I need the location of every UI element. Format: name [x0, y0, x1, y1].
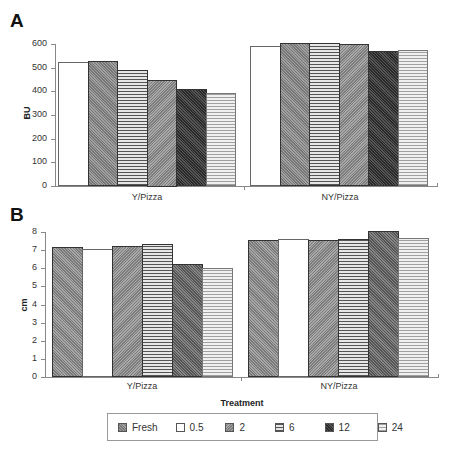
y-tick-label: 3: [9, 317, 37, 327]
legend-swatch-0-5: [176, 423, 185, 432]
bar-2: [112, 246, 143, 377]
legend-item-0-5: 0.5: [176, 422, 204, 433]
y-tick-label: 7: [9, 244, 37, 254]
legend-item-12: 12: [325, 422, 350, 433]
y-tick-label: 2: [9, 335, 37, 345]
bar-0-5: [82, 249, 113, 377]
bar-2: [308, 240, 339, 377]
chart-b-category-label: NY/Pizza: [279, 381, 399, 391]
chart-b: cm 012345678 Y/Pizza NY/Pizza Treatment: [0, 0, 450, 454]
legend-label: 12: [339, 422, 350, 433]
bar-12: [368, 231, 399, 377]
legend-label: 2: [239, 422, 245, 433]
legend-swatch-2: [225, 423, 234, 432]
bar-Fresh: [248, 240, 279, 377]
y-tick-label: 5: [9, 280, 37, 290]
legend-item-2: 2: [225, 422, 245, 433]
y-tick-label: 1: [9, 353, 37, 363]
chart-b-y-axis: [45, 232, 46, 377]
y-tick-label: 6: [9, 262, 37, 272]
chart-b-xlabel: Treatment: [182, 398, 302, 408]
legend-label: 24: [392, 422, 403, 433]
legend-item-24: 24: [378, 422, 403, 433]
bar-Fresh: [52, 247, 83, 377]
chart-b-category-label: Y/Pizza: [82, 381, 202, 391]
bar-6: [142, 244, 173, 377]
bar-12: [172, 264, 203, 377]
bar-24: [398, 238, 429, 377]
y-tick-label: 0: [9, 371, 37, 381]
bar-6: [338, 239, 369, 377]
legend-label: 6: [289, 422, 295, 433]
legend-swatch-12: [325, 423, 334, 432]
legend-swatch-6: [275, 423, 284, 432]
y-tick-label: 4: [9, 299, 37, 309]
legend-swatch-fresh: [118, 423, 127, 432]
legend: Fresh 0.5 2 6 12 24: [107, 413, 378, 441]
legend-swatch-24: [378, 423, 387, 432]
chart-b-xtick: [438, 374, 439, 378]
legend-label: Fresh: [132, 422, 158, 433]
bar-0-5: [278, 239, 309, 377]
chart-b-xtick: [241, 377, 242, 381]
legend-item-6: 6: [275, 422, 295, 433]
legend-item-fresh: Fresh: [118, 422, 158, 433]
legend-label: 0.5: [190, 422, 204, 433]
y-tick-label: 8: [9, 226, 37, 236]
bar-24: [202, 268, 233, 377]
